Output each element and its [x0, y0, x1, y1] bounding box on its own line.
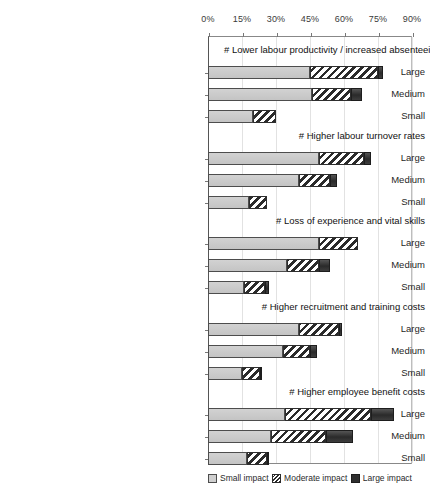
x-axis-tick — [379, 33, 380, 37]
bar-segment-moderate — [299, 323, 340, 336]
bar-segment-large — [310, 345, 317, 358]
legend-label: Small impact — [220, 473, 269, 483]
x-axis-tick — [413, 33, 414, 37]
bar-segment-large — [326, 430, 353, 443]
x-axis-tick — [345, 33, 346, 37]
chart-legend: Small impactModerate impactLarge impact — [208, 470, 412, 486]
bar-segment-small — [208, 152, 319, 165]
bar-segment-moderate — [287, 259, 319, 272]
bar-segment-moderate — [271, 430, 325, 443]
bar-large — [208, 66, 383, 79]
group-label: # Higher labour turnover rates — [224, 130, 430, 141]
legend-swatch-moderate-icon — [272, 474, 281, 483]
bar-large — [208, 408, 394, 421]
x-axis-tick — [243, 33, 244, 37]
group-label: # Higher employee benefit costs — [224, 386, 430, 397]
legend-swatch-small-icon — [208, 474, 217, 483]
bar-segment-moderate — [242, 367, 260, 380]
bar-segment-small — [208, 430, 271, 443]
bar-small — [208, 452, 269, 465]
group-label: # Higher recruitment and training costs — [224, 301, 430, 312]
bar-segment-moderate — [285, 408, 371, 421]
bar-segment-large — [260, 367, 262, 380]
bar-segment-large — [351, 88, 362, 101]
bar-segment-small — [208, 323, 299, 336]
bar-segment-moderate — [247, 452, 267, 465]
group-label: # Lower labour productivity / increased … — [224, 44, 430, 55]
x-axis-tick — [277, 33, 278, 37]
bar-segment-large — [364, 152, 371, 165]
legend-label: Moderate impact — [284, 473, 347, 483]
x-tick-label: 45% — [301, 14, 320, 24]
legend-item-small[interactable]: Small impact — [208, 473, 269, 483]
x-tick-label: 90% — [403, 14, 422, 24]
x-tick-label: 60% — [335, 14, 354, 24]
bar-segment-large — [267, 452, 269, 465]
stacked-bar-chart: 0%15%30%45%60%75%90% Small impactModerat… — [0, 0, 430, 500]
bar-segment-moderate — [249, 196, 267, 209]
bar-segment-small — [208, 110, 253, 123]
bar-segment-large — [330, 174, 337, 187]
x-axis-tick-labels: 0%15%30%45%60%75%90% — [0, 14, 430, 28]
gridline — [412, 37, 413, 463]
bar-segment-moderate — [319, 152, 364, 165]
x-axis-tick — [209, 33, 210, 37]
bar-segment-small — [208, 174, 299, 187]
bar-segment-small — [208, 408, 285, 421]
bar-large — [208, 323, 342, 336]
gridline — [378, 37, 379, 463]
legend-label: Large impact — [363, 473, 412, 483]
bar-medium — [208, 259, 330, 272]
x-tick-label: 30% — [267, 14, 286, 24]
bar-segment-moderate — [244, 281, 264, 294]
bar-segment-small — [208, 259, 287, 272]
bar-segment-moderate — [312, 88, 351, 101]
bar-segment-small — [208, 452, 247, 465]
bar-medium — [208, 345, 317, 358]
bar-segment-small — [208, 196, 249, 209]
x-tick-label: 75% — [369, 14, 388, 24]
bar-segment-small — [208, 66, 310, 79]
x-tick-label: 0% — [201, 14, 214, 24]
bar-segment-moderate — [299, 174, 331, 187]
bar-medium — [208, 174, 337, 187]
legend-item-moderate[interactable]: Moderate impact — [272, 473, 347, 483]
x-tick-label: 15% — [233, 14, 252, 24]
bar-small — [208, 367, 262, 380]
group-label: # Loss of experience and vital skills — [224, 215, 430, 226]
bar-segment-moderate — [310, 66, 378, 79]
bar-segment-small — [208, 281, 244, 294]
bar-medium — [208, 88, 362, 101]
bar-segment-large — [319, 259, 330, 272]
bar-segment-large — [371, 408, 394, 421]
bar-segment-small — [208, 237, 319, 250]
legend-item-large[interactable]: Large impact — [351, 473, 412, 483]
bar-segment-small — [208, 88, 312, 101]
bar-segment-moderate — [283, 345, 310, 358]
bar-segment-large — [339, 323, 341, 336]
bar-segment-large — [265, 281, 270, 294]
bar-small — [208, 196, 267, 209]
bar-small — [208, 110, 276, 123]
bar-segment-moderate — [319, 237, 358, 250]
bar-large — [208, 237, 358, 250]
bar-segment-large — [378, 66, 383, 79]
bar-small — [208, 281, 269, 294]
bar-segment-small — [208, 345, 283, 358]
bar-medium — [208, 430, 353, 443]
bar-large — [208, 152, 371, 165]
legend-swatch-large-icon — [351, 474, 360, 483]
bar-segment-small — [208, 367, 242, 380]
x-axis-tick — [311, 33, 312, 37]
bar-segment-moderate — [253, 110, 276, 123]
